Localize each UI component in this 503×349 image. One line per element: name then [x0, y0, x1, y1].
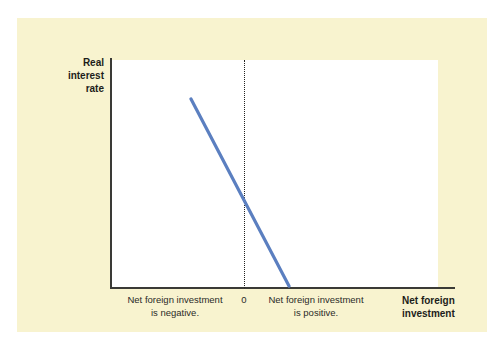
x-axis-title: Net foreign investment	[402, 294, 488, 320]
annotation-positive-nfi-line-1: Net foreign investment	[251, 294, 381, 307]
nfi-curve-line	[191, 99, 289, 286]
annotation-positive-nfi: Net foreign investment is positive.	[251, 294, 381, 319]
nfi-curve	[111, 60, 438, 288]
annotation-negative-nfi-line-2: is negative.	[111, 307, 239, 320]
figure-canvas: Real interest rate Net foreign investmen…	[0, 0, 503, 349]
x-axis-title-line-1: Net foreign	[402, 294, 488, 307]
y-axis-title-line-1: Real	[40, 56, 104, 69]
annotation-negative-nfi-line-1: Net foreign investment	[111, 294, 239, 307]
annotation-negative-nfi: Net foreign investment is negative.	[111, 294, 239, 319]
annotation-positive-nfi-line-2: is positive.	[251, 307, 381, 320]
x-axis-title-line-2: investment	[402, 307, 488, 320]
y-axis-title: Real interest rate	[40, 56, 104, 95]
y-axis-title-line-2: interest	[40, 69, 104, 82]
y-axis-title-line-3: rate	[40, 82, 104, 95]
